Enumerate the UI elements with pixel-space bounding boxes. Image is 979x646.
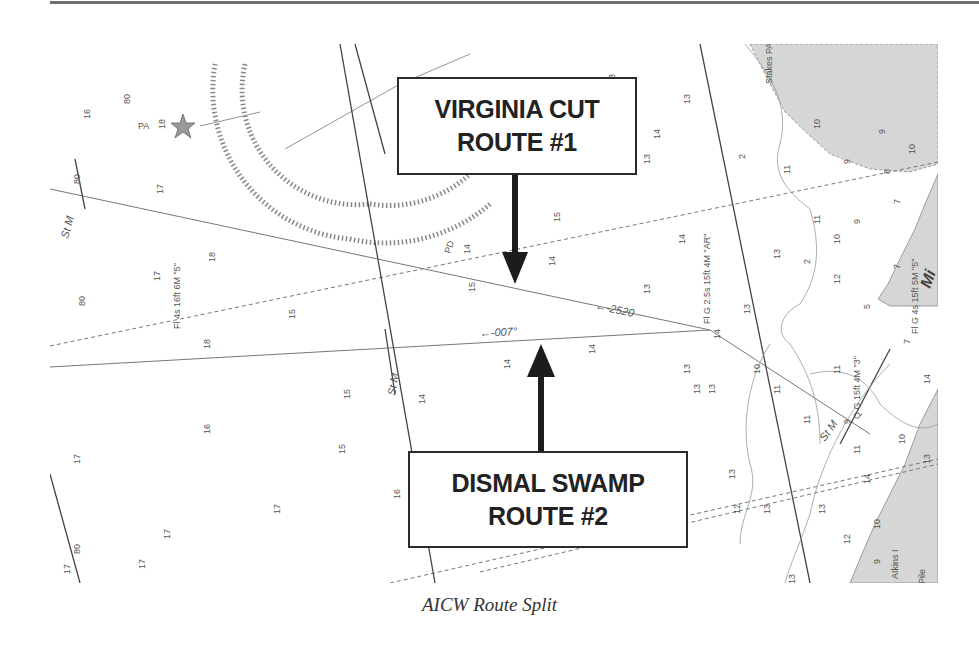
depth-sounding: 15 [337, 444, 347, 454]
depth-sounding: 13 [727, 469, 737, 479]
depth-sounding: 9 [852, 219, 862, 224]
top-rule [50, 1, 979, 4]
depth-sounding: 10 [752, 364, 762, 374]
callout-route-1-line1: VIRGINIA CUT [435, 93, 600, 126]
depth-sounding: 9 [842, 159, 852, 164]
depth-sounding: 13 [817, 504, 827, 514]
light-label-4: Fl G 4s 15ft 5M "5" [910, 259, 920, 334]
pd-label: PD [442, 239, 456, 255]
callout-route-2: DISMAL SWAMP ROUTE #2 [408, 451, 688, 548]
depth-sounding: 16 [82, 109, 92, 119]
light-label-2: Fl G 2.5s 15ft 4M "AR" [702, 234, 712, 324]
depth-sounding: 17 [272, 504, 282, 514]
depth-sounding: 10 [812, 119, 822, 129]
depth-sounding: 14 [547, 256, 557, 266]
pile-label: Pile [917, 569, 927, 583]
depth-sounding: 14 [922, 374, 932, 384]
pa-label: PA [138, 121, 149, 131]
depth-sounding: 16 [392, 489, 402, 499]
depth-sounding: 13 [642, 284, 652, 294]
depth-sounding: 12 [832, 274, 842, 284]
depth-sounding: 9 [877, 129, 887, 134]
depth-sounding: 11 [782, 165, 792, 174]
arrow-down-route1 [502, 174, 528, 284]
light-label-1: Fl 4s 16ft 6M "5" [172, 263, 182, 329]
depth-sounding: 14 [587, 344, 597, 354]
depth-sounding: 14 [677, 234, 687, 244]
depth-sounding: 80 [122, 94, 132, 104]
depth-sounding: 17 [137, 559, 147, 569]
depth-sounding: 5 [862, 304, 872, 309]
depth-sounding: 7 [892, 264, 902, 269]
bearing-label-2: ←-007° [479, 325, 518, 339]
depth-sounding: 15 [342, 389, 352, 399]
depth-sounding: 15 [552, 212, 562, 222]
depth-sounding: 18 [157, 119, 167, 129]
depth-sounding: 13 [707, 384, 717, 394]
depth-sounding: 14 [417, 394, 427, 404]
depth-sounding: 18 [207, 252, 217, 262]
depth-sounding: 7 [902, 339, 912, 344]
depth-sounding: 13 [922, 454, 932, 464]
depth-sounding: 11 [852, 445, 862, 454]
depth-sounding: 13 [762, 504, 772, 514]
depth-sounding: 17 [62, 564, 72, 574]
depth-sounding: 10 [907, 144, 917, 154]
stm-label-1: St M [58, 214, 76, 240]
depth-sounding: 12 [732, 504, 742, 514]
star-icon [171, 114, 195, 138]
depth-sounding: 8 [882, 169, 892, 174]
depth-sounding: 10 [832, 234, 842, 244]
depth-sounding: 13 [692, 384, 702, 394]
depth-sounding: 7 [892, 199, 902, 204]
depth-sounding: 2 [737, 154, 747, 159]
depth-sounding: 13 [682, 364, 692, 374]
depth-sounding: 12 [842, 534, 852, 544]
depth-sounding: 13 [682, 94, 692, 104]
depth-sounding: 80 [77, 296, 87, 306]
nautical-chart: 8016181780181780151814151415131413141313… [50, 44, 938, 583]
stm-label-2: St M [385, 371, 401, 396]
depth-sounding: 11 [772, 385, 782, 394]
callout-route-1-line2: ROUTE #1 [457, 126, 577, 159]
depth-sounding: 80 [72, 174, 82, 184]
depth-sounding: 15 [467, 282, 477, 292]
callout-route-2-line1: DISMAL SWAMP [451, 467, 644, 500]
callout-route-2-line2: ROUTE #2 [488, 500, 608, 533]
depth-sounding: 11 [812, 215, 822, 224]
depth-sounding: 18 [202, 339, 212, 349]
arrow-up-route2 [527, 344, 555, 452]
depth-sounding: 16 [202, 424, 212, 434]
depth-sounding: 2 [802, 259, 812, 264]
depth-sounding: 13 [742, 304, 752, 314]
depth-sounding: 14 [712, 329, 722, 339]
bearing-label-1: ←-2520 [595, 299, 637, 319]
depth-sounding: 13 [772, 249, 782, 259]
depth-sounding: 10 [872, 519, 882, 529]
depth-sounding: 80 [72, 544, 82, 554]
depth-sounding: 14 [652, 129, 662, 139]
depth-sounding: 11 [832, 365, 842, 374]
light-label-3: Q G 15ft 4M "3" [852, 356, 862, 419]
depth-sounding: 14 [862, 474, 872, 484]
depth-sounding: 9 [842, 419, 852, 424]
callout-route-1: VIRGINIA CUT ROUTE #1 [397, 77, 637, 175]
depth-sounding: 17 [72, 454, 82, 464]
depth-sounding: 13 [787, 574, 797, 583]
depth-sounding: 15 [287, 309, 297, 319]
figure-caption: AICW Route Split [0, 594, 979, 616]
depth-sounding: 14 [462, 244, 472, 254]
place-label-atkins: Atkins I [890, 549, 900, 579]
depth-sounding: 13 [642, 154, 652, 164]
depth-sounding: 17 [152, 271, 162, 281]
depth-sounding: 11 [802, 415, 812, 424]
depth-sounding: 9 [872, 559, 882, 564]
depth-sounding: 17 [155, 184, 165, 194]
depth-sounding: 14 [502, 359, 512, 369]
place-label-stakes: Stakes PA [764, 44, 774, 84]
depth-sounding: 17 [162, 529, 172, 539]
depth-sounding: 10 [897, 434, 907, 444]
